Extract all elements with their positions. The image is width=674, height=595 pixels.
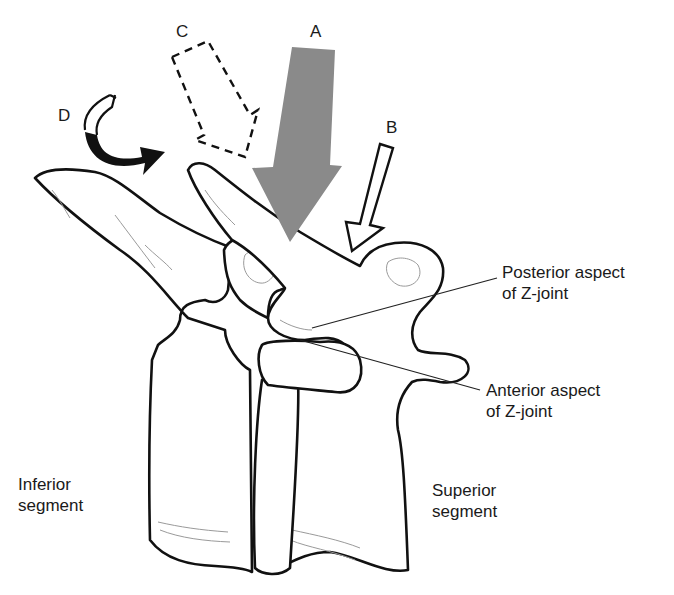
arrow-d-icon bbox=[85, 95, 165, 175]
superior-segment-label: Superior segment bbox=[432, 480, 497, 522]
arrow-a-label: A bbox=[310, 22, 321, 42]
inferior-segment-label: Inferior segment bbox=[18, 474, 83, 516]
arrow-b-icon bbox=[346, 144, 393, 251]
posterior-line1: Posterior aspect bbox=[502, 262, 625, 283]
arrow-c-label: C bbox=[176, 22, 188, 42]
posterior-aspect-label: Posterior aspect of Z-joint bbox=[502, 262, 625, 304]
anterior-aspect-label: Anterior aspect of Z-joint bbox=[486, 380, 600, 422]
anterior-line1: Anterior aspect bbox=[486, 380, 600, 401]
arrow-d-label: D bbox=[58, 106, 70, 126]
superior-articular-process bbox=[259, 341, 362, 393]
anterior-line2: of Z-joint bbox=[486, 401, 600, 422]
superior-line1: Superior bbox=[432, 480, 497, 501]
inferior-line2: segment bbox=[18, 495, 83, 516]
arrow-c-icon bbox=[172, 41, 258, 157]
arrow-b-label: B bbox=[386, 118, 397, 138]
superior-line2: segment bbox=[432, 501, 497, 522]
posterior-line2: of Z-joint bbox=[502, 283, 625, 304]
intervertebral-disc bbox=[254, 375, 298, 574]
inferior-line1: Inferior bbox=[18, 474, 83, 495]
